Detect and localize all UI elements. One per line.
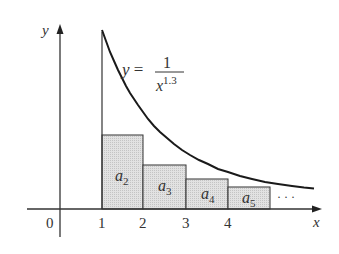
origin-label: 0 [46, 215, 54, 231]
integral-test-diagram: y x 0 1 2 3 4 a2 a3 a4 a5 · · · y = 1 x1… [0, 0, 339, 254]
tick-3: 3 [182, 215, 190, 231]
x-axis-arrow-icon [312, 206, 322, 213]
equation-numerator: 1 [163, 54, 171, 71]
tick-2: 2 [139, 215, 147, 231]
y-axis-arrow-icon [57, 24, 64, 34]
y-axis-label: y [40, 22, 49, 38]
equation-denominator: x1.3 [155, 74, 177, 94]
x-axis-label: x [312, 214, 320, 230]
equation-label: y = 1 x1.3 [120, 54, 184, 94]
equation-lhs: y = [120, 60, 143, 79]
tick-4: 4 [224, 215, 232, 231]
continuation-dots: · · · [277, 190, 295, 204]
tick-1: 1 [98, 215, 106, 231]
